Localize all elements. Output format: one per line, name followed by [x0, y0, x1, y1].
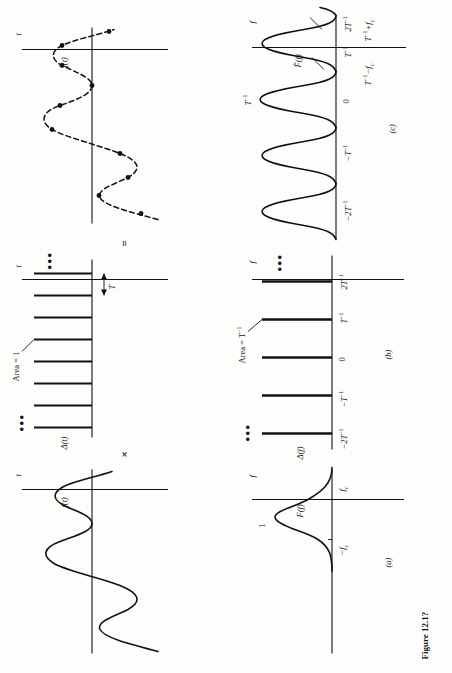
spectrum-f-ylabel: F(f)	[296, 504, 305, 517]
impulse-train-freq-ylabel: Δ(f)	[296, 446, 305, 459]
equals-operator: =	[118, 240, 130, 246]
panel-letter-a: (a)	[384, 557, 393, 567]
time-signal-plot	[8, 463, 176, 659]
ellipsis-left-time: •••	[14, 413, 30, 431]
panel-sampled-spectrum: F̂(f) f T−1 −2T−1 −T−1 0 T−1 2T−1 T−1−fc…	[232, 9, 412, 245]
panel-letter-c: (c)	[388, 124, 397, 133]
callout-T-minus-fc: T−1−fc	[362, 63, 375, 85]
spec-tick-neg-T: −T−1	[342, 144, 352, 161]
impulse-train-freq-xlabel: f	[248, 261, 257, 263]
spectrum-f-tick-neg-fc: −fc	[338, 544, 349, 555]
ellipsis-left-freq: •••	[240, 423, 256, 441]
sampled-signal-ylabel: f(t)	[60, 57, 69, 67]
freq-tick-neg-T: −T−1	[338, 390, 348, 407]
spec-tick-T: T−1	[342, 46, 352, 57]
time-signal-xlabel: t	[14, 474, 23, 476]
spacing-label-T: T	[108, 284, 117, 289]
spectrum-f-tick-fc: fc	[338, 486, 349, 491]
impulse-train-time-plot	[8, 253, 176, 443]
panel-time-signal: f(t) t	[8, 463, 176, 659]
multiply-operator: ×	[118, 451, 130, 457]
spec-tick-2T: 2T−1	[342, 16, 352, 31]
sampled-signal-plot	[8, 19, 176, 229]
area-annotation-time: Area = 1	[12, 351, 21, 381]
callout-T-plus-fc: T−1+fc	[362, 19, 375, 41]
sampled-signal-xlabel: t	[14, 33, 23, 35]
figure-caption: Figure 12.1?	[420, 611, 430, 659]
figure-plate: f(t) t × Δ(t) t Area = 1 T •••	[0, 0, 452, 673]
ellipsis-right-time: •••	[42, 251, 58, 269]
freq-tick-2T: 2T−1	[338, 274, 348, 289]
sampled-spectrum-peak-label: T−1	[242, 94, 252, 105]
area-annotation-freq: Area = T−1	[236, 326, 246, 363]
spectrum-f-peak-label: 1	[258, 523, 267, 527]
spec-tick-neg-2T: −2T−1	[342, 200, 352, 221]
panel-sampled-signal: f(t) t	[8, 19, 176, 229]
panel-impulse-train-time: Δ(t) t Area = 1 T ••• •••	[8, 253, 176, 443]
spec-tick-zero: 0	[342, 99, 351, 103]
freq-tick-T: T−1	[338, 312, 348, 323]
impulse-train-time-xlabel: t	[14, 265, 23, 267]
sampled-spectrum-xlabel: f	[248, 21, 257, 23]
ellipsis-right-freq: •••	[272, 253, 288, 271]
spectrum-f-xlabel: f	[248, 475, 257, 477]
sampled-spectrum-ylabel: F̂(f)	[294, 54, 303, 67]
impulse-train-time-ylabel: Δ(t)	[60, 436, 69, 449]
panel-spectrum-f: F(f) f 1 −fc fc (a)	[232, 463, 412, 659]
sampled-spectrum-plot	[232, 9, 412, 245]
freq-tick-zero: 0	[338, 357, 347, 361]
freq-tick-neg-2T: −2T−1	[338, 428, 348, 449]
panel-letter-b: (b)	[384, 349, 393, 359]
time-signal-ylabel: f(t)	[60, 497, 69, 507]
panel-impulse-train-freq: Δ(f) f Area = T−1 −2T−1 −T−1 0 T−1 2T−1 …	[232, 249, 412, 455]
